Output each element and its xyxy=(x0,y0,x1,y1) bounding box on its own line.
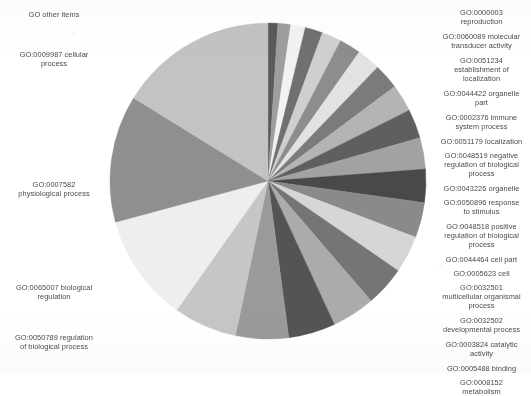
label-go-0032501-multicellular-organismal-process: GO:0032501multicellular organismalproces… xyxy=(432,283,531,311)
label-go-0002376-immune-system-process: GO:0002376 immunesystem process xyxy=(432,113,531,131)
label-go-0032502-developmental-process: GO:0032502developmental process xyxy=(432,316,531,334)
label-go-other-items: GO other items xyxy=(0,10,108,19)
label-go-0043226-organelle: GO:0043226 organelle xyxy=(432,184,531,193)
label-go-0005488-binding: GO:0005488 binding xyxy=(432,364,531,373)
label-go-0050896-response-to-stimulus: GO:0050896 responseto stimulus xyxy=(432,198,531,216)
label-go-0007582-physiological-process: GO:0007582physiological process xyxy=(0,180,108,198)
label-go-0060089-molecular-transducer-activity: GO:0060089 moleculartransducer activity xyxy=(432,32,531,50)
label-go-0008152-metabolism: GO:0008152metabolism xyxy=(432,378,531,396)
pie-chart xyxy=(109,22,427,340)
label-go-0050789-regulation-of-biological-process: GO:0050789 regulationof biological proce… xyxy=(0,333,108,351)
label-go-0044464-cell-part: GO:0044464 cell part xyxy=(432,255,531,264)
label-go-0044422-organelle-part: GO:0044422 organellepart xyxy=(432,89,531,107)
label-go-0005623-cell: GO:0005623 cell xyxy=(432,269,531,278)
pie-slice-group xyxy=(110,23,426,339)
label-go-0000003-reproduction: GO:0000003reproduction xyxy=(432,8,531,26)
label-go-0051179-localization: GO:0051179 localization xyxy=(432,137,531,146)
label-go-0009987-cellular-process: GO:0009987 cellularprocess xyxy=(0,50,108,68)
label-go-0051234-establishment-of-localization: GO:0051234establishment oflocalization xyxy=(432,56,531,84)
pie-chart-svg xyxy=(109,22,427,340)
label-go-0048519-negative-regulation-of-biological-process: GO:0048519 negativeregulation of biologi… xyxy=(432,151,531,179)
label-go-0048518-positive-regulation-of-biological-process: GO:0048518 positiveregulation of biologi… xyxy=(432,222,531,250)
label-go-0003824-catalytic-activity: GO:0003824 catalyticactivity xyxy=(432,340,531,358)
label-go-0065007-biological-regulation: GO:0065007 biologicalregulation xyxy=(0,283,108,301)
